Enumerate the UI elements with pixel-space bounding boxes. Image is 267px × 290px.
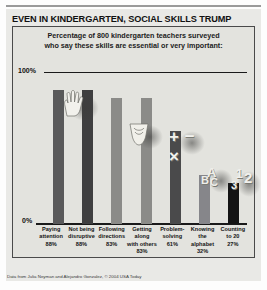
y-axis-min-label: 0% [22, 217, 32, 224]
x-label-4-line1: Getting [127, 226, 157, 233]
bar-3 [111, 98, 122, 224]
hand-icon-shadow [69, 95, 99, 121]
x-label-4-line2: along [127, 233, 157, 240]
x-axis-labels: Payingattention88%Not beingdisruptive88%… [36, 226, 248, 256]
x-label-2-line3: 88% [66, 241, 96, 248]
x-label-7-line1: Counting [218, 226, 248, 233]
x-label-7: Countingto 2027% [218, 226, 248, 256]
number-icon-shadow [237, 171, 261, 197]
x-label-1: Payingattention88% [36, 226, 66, 256]
x-label-6-line4: 32% [187, 248, 217, 255]
page-title: EVEN IN KINDERGARTEN, SOCIAL SKILLS TRUM… [12, 14, 257, 24]
x-label-7-line3: 27% [218, 241, 248, 248]
x-label-1-line1: Paying [36, 226, 66, 233]
x-label-5-line2: solving [157, 233, 187, 240]
source-credit: Data from Julia Neyman and Alejandro Gon… [7, 274, 257, 279]
math-icon-shadow [179, 131, 205, 155]
x-label-4-line3: with others [127, 241, 157, 248]
bar-4 [141, 98, 152, 224]
x-label-6-line2: the [187, 233, 217, 240]
x-label-7-line2: to 20 [218, 233, 248, 240]
x-label-5-line1: Problem- [157, 226, 187, 233]
x-label-2-line1: Not being [66, 226, 96, 233]
bar-1 [53, 90, 64, 224]
x-label-4-line4: 83% [127, 248, 157, 255]
x-label-1-line2: attention [36, 233, 66, 240]
chart-container: Percentage of 800 kindergarten teachers … [12, 26, 255, 258]
x-label-3-line2: directions [97, 233, 127, 240]
x-label-4: Gettingalongwith others83% [127, 226, 157, 256]
x-label-2: Not beingdisruptive88% [66, 226, 96, 256]
x-label-2-line2: disruptive [66, 233, 96, 240]
x-label-1-line3: 88% [36, 241, 66, 248]
y-axis-max-label: 100% [18, 67, 36, 74]
top-divider-rule [6, 5, 261, 7]
plot-area: 100% 0% + − × [13, 27, 254, 257]
x-label-3: Followingdirections83% [97, 226, 127, 256]
x-label-3-line3: 83% [97, 241, 127, 248]
x-label-6: Knowingthealphabet32% [187, 226, 217, 256]
x-label-6-line3: alphabet [187, 241, 217, 248]
abc-icon-shadow [209, 169, 233, 193]
infographic-page: EVEN IN KINDERGARTEN, SOCIAL SKILLS TRUM… [0, 0, 267, 290]
x-label-5-line3: 61% [157, 241, 187, 248]
x-label-5: Problem-solving61% [157, 226, 187, 256]
x-label-3-line1: Following [97, 226, 127, 233]
x-label-6-line1: Knowing [187, 226, 217, 233]
shoe-icon-shadow [137, 125, 163, 149]
